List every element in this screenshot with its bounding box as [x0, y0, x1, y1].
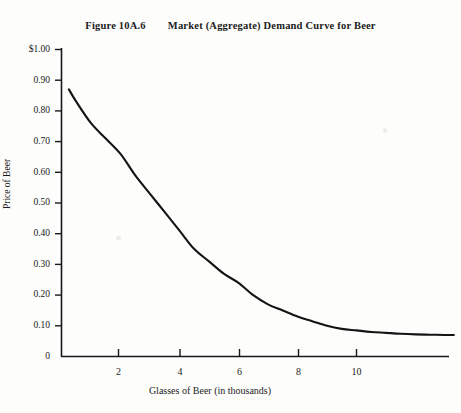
x-axis-title: Glasses of Beer (in thousands): [60, 385, 360, 396]
figure-page: Figure 10A.6Market (Aggregate) Demand Cu…: [0, 0, 461, 413]
y-tick-label: $1.00: [0, 44, 50, 54]
scan-artifact: [383, 128, 387, 133]
x-tick-label: 10: [342, 366, 371, 377]
chart-plot-area: $1.00 0.90 0.80 0.70 0.60 0.50 0.40 0.30…: [0, 0, 461, 413]
x-tick-label: 8: [284, 366, 313, 377]
demand-curve-path: [69, 89, 454, 335]
y-tick-label: 0.30: [0, 259, 50, 269]
y-tick-label: 0.90: [0, 75, 50, 85]
y-tick-label: 0: [0, 351, 50, 361]
scan-artifact: [116, 236, 121, 240]
y-tick-label: 0.80: [0, 105, 50, 115]
y-tick-label: 0.40: [0, 228, 50, 238]
y-tick-label: 0.10: [0, 320, 50, 330]
y-axis-title: Price of Beer: [2, 144, 12, 224]
y-axis-ticks: [55, 50, 62, 326]
y-tick-label: 0.20: [0, 289, 50, 299]
x-axis-ticks: [119, 349, 357, 357]
demand-curve-chart: [0, 0, 461, 413]
x-tick-label: 2: [104, 366, 133, 377]
x-tick-label: 6: [225, 366, 254, 377]
x-tick-label: 4: [165, 366, 195, 377]
